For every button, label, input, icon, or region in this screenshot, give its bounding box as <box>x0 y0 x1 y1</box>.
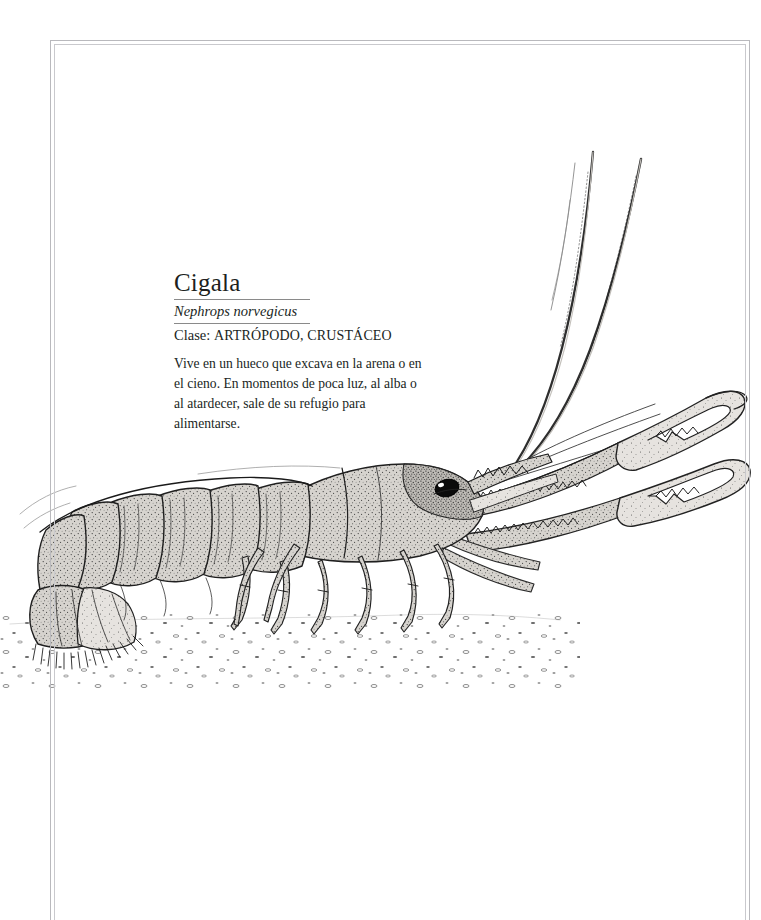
rule-under-common-name <box>174 299 310 300</box>
antenna-long-left <box>504 152 593 480</box>
cheliped-claw-lower <box>466 460 750 552</box>
class-line: Clase: ARTRÓPODO, CRUSTÁCEO <box>174 327 434 345</box>
antennule <box>500 404 668 482</box>
eye <box>433 477 460 499</box>
antenna-long-right <box>520 159 641 468</box>
species-caption: Cigala Nephrops norvegicus Clase: ARTRÓP… <box>174 270 434 434</box>
seabed-sand <box>0 612 580 690</box>
carapace <box>294 464 483 562</box>
page-frame-inner <box>54 44 746 920</box>
tail-fan <box>30 586 143 670</box>
abdomen-segments <box>38 477 312 595</box>
common-name: Cigala <box>174 270 434 296</box>
cheliped-claw-upper <box>470 391 747 516</box>
page-frame-outer <box>50 40 750 920</box>
walking-legs <box>231 544 454 634</box>
description-text: Vive en un hueco que excava en la arena … <box>174 354 422 434</box>
rule-under-scientific-name <box>174 323 310 324</box>
class-value: ARTRÓPODO, CRUSTÁCEO <box>214 328 392 343</box>
uropods <box>77 588 136 650</box>
rostrum <box>468 454 558 512</box>
class-label: Clase: <box>174 327 214 343</box>
walking-legs <box>440 536 540 592</box>
scientific-name: Nephrops norvegicus <box>174 303 434 320</box>
